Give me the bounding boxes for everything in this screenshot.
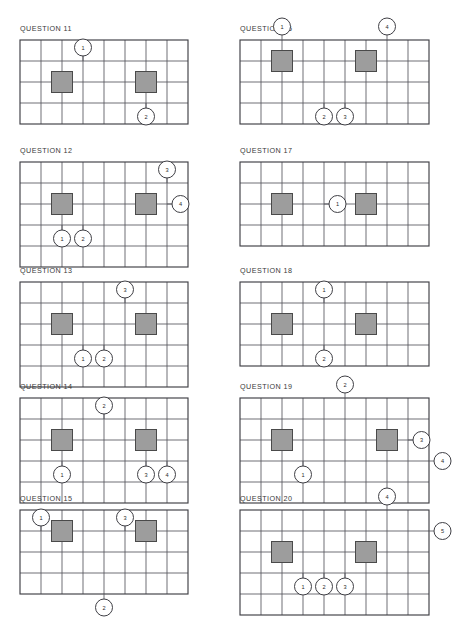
numbered-marker: 5 xyxy=(429,523,451,540)
numbered-marker: 2 xyxy=(75,225,92,247)
numbered-marker: 4 xyxy=(379,488,396,510)
gray-tile xyxy=(356,314,377,335)
marker-label: 3 xyxy=(123,515,126,521)
numbered-marker: 2 xyxy=(316,103,333,125)
gray-tile xyxy=(272,51,293,72)
numbered-marker: 1 xyxy=(295,461,312,483)
marker-label: 1 xyxy=(280,24,283,30)
numbered-marker: 2 xyxy=(316,573,333,595)
numbered-marker: 3 xyxy=(117,281,134,303)
marker-label: 1 xyxy=(301,584,304,590)
numbered-marker: 4 xyxy=(167,196,189,213)
marker-label: 4 xyxy=(441,458,444,464)
marker-label: 4 xyxy=(165,472,168,478)
marker-label: 3 xyxy=(123,287,126,293)
marker-label: 2 xyxy=(102,356,105,362)
numbered-marker: 1 xyxy=(33,509,50,531)
numbered-marker: 3 xyxy=(117,509,134,531)
grid-border xyxy=(240,510,429,615)
gray-tile xyxy=(136,194,157,215)
gray-tile xyxy=(136,521,157,542)
numbered-marker: 3 xyxy=(408,432,430,449)
marker-label: 2 xyxy=(322,114,325,120)
numbered-marker: 3 xyxy=(159,161,176,183)
marker-label: 3 xyxy=(420,437,423,443)
numbered-marker: 3 xyxy=(337,573,354,595)
gray-tile xyxy=(52,194,73,215)
marker-label: 2 xyxy=(322,584,325,590)
gray-tile xyxy=(52,314,73,335)
numbered-marker: 1 xyxy=(75,345,92,367)
gray-tile xyxy=(356,542,377,563)
numbered-marker: 2 xyxy=(337,376,354,398)
gray-tile xyxy=(272,542,293,563)
marker-label: 3 xyxy=(343,584,346,590)
marker-label: 2 xyxy=(102,605,105,611)
gray-tile xyxy=(272,314,293,335)
marker-label: 4 xyxy=(179,201,182,207)
gray-tile xyxy=(377,430,398,451)
marker-label: 4 xyxy=(385,494,388,500)
numbered-marker: 3 xyxy=(138,461,155,483)
gray-tile xyxy=(356,194,377,215)
marker-label: 2 xyxy=(144,114,147,120)
numbered-marker: 4 xyxy=(429,453,451,470)
marker-label: 2 xyxy=(322,356,325,362)
marker-label: 3 xyxy=(144,472,147,478)
marker-label: 1 xyxy=(81,356,84,362)
gray-tile xyxy=(272,430,293,451)
marker-label: 1 xyxy=(60,236,63,242)
marker-label: 1 xyxy=(60,472,63,478)
marker-label: 1 xyxy=(336,201,339,207)
numbered-marker: 1 xyxy=(295,573,312,595)
marker-label: 1 xyxy=(301,472,304,478)
numbered-marker: 2 xyxy=(138,103,155,125)
numbered-marker: 2 xyxy=(316,345,333,367)
numbered-marker: 1 xyxy=(324,196,346,213)
marker-label: 2 xyxy=(81,236,84,242)
marker-label: 3 xyxy=(165,167,168,173)
numbered-marker: 1 xyxy=(274,18,291,40)
marker-label: 2 xyxy=(102,403,105,409)
marker-label: 3 xyxy=(343,114,346,120)
numbered-marker: 4 xyxy=(159,461,176,483)
marker-label: 1 xyxy=(39,515,42,521)
gray-tile xyxy=(272,194,293,215)
marker-label: 2 xyxy=(343,382,346,388)
gray-tile xyxy=(356,51,377,72)
numbered-marker: 2 xyxy=(96,397,113,419)
numbered-marker: 3 xyxy=(337,103,354,125)
numbered-marker: 1 xyxy=(75,39,92,61)
marker-label: 5 xyxy=(441,528,444,534)
marker-label: 4 xyxy=(385,24,388,30)
grid-border xyxy=(240,398,429,503)
numbered-marker: 2 xyxy=(96,594,113,616)
gray-tile xyxy=(52,72,73,93)
numbered-marker: 1 xyxy=(316,281,333,303)
marker-label: 1 xyxy=(81,45,84,51)
gray-tile xyxy=(136,314,157,335)
marker-label: 1 xyxy=(322,287,325,293)
numbered-marker: 4 xyxy=(379,18,396,40)
gray-tile xyxy=(52,430,73,451)
numbered-marker: 2 xyxy=(96,345,113,367)
gray-tile xyxy=(136,430,157,451)
gray-tile xyxy=(52,521,73,542)
numbered-marker: 1 xyxy=(54,225,71,247)
numbered-marker: 1 xyxy=(54,461,71,483)
gray-tile xyxy=(136,72,157,93)
